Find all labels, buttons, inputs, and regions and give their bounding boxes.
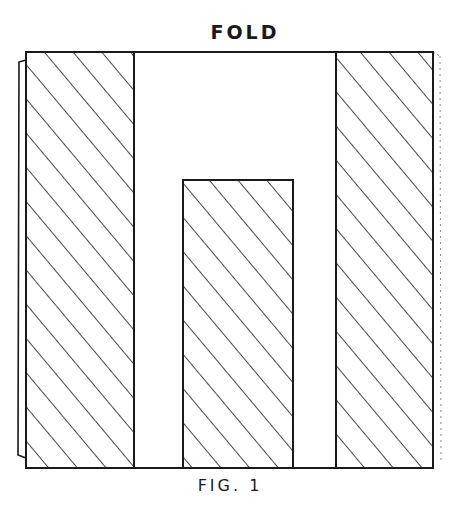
diagram-drawing: [0, 0, 456, 506]
left-hatched-strip: [27, 52, 134, 468]
center-hatched-block: [183, 180, 293, 468]
fold-label: FOLD: [190, 21, 300, 43]
right-hatched-strip: [336, 52, 432, 468]
folded-sheet-diagram: FOLD: [0, 0, 456, 506]
figure-caption: FIG. 1: [180, 476, 280, 495]
